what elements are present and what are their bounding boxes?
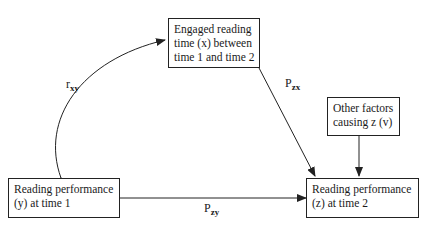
node-text: causing z (v) (333, 115, 394, 129)
node-reading-performance-y: Reading performance (y) at time 1 (8, 178, 120, 218)
label-base: P (204, 201, 211, 215)
correlation-arrow-rxy (55, 40, 165, 178)
node-text: time 1 and time 2 (174, 50, 254, 64)
node-text: Engaged reading (174, 22, 254, 36)
node-other-factors: Other factors causing z (v) (327, 97, 400, 136)
node-text: Reading performance (312, 182, 413, 196)
node-text: time (x) between (174, 36, 254, 50)
node-text: (z) at time 2 (312, 196, 413, 210)
edge-label-pzy: Pzy (204, 201, 219, 217)
label-subscript: xy (70, 83, 79, 93)
edge-label-pzx: Pzx (285, 76, 300, 92)
node-reading-performance-z: Reading performance (z) at time 2 (306, 178, 419, 218)
node-text: Reading performance (14, 182, 114, 196)
label-subscript: zx (292, 82, 301, 92)
node-engaged-reading-time: Engaged reading time (x) between time 1 … (168, 18, 260, 68)
edge-label-rxy: rxy (66, 77, 79, 93)
node-text: Other factors (333, 101, 394, 115)
label-subscript: zy (211, 207, 220, 217)
node-text: (y) at time 1 (14, 196, 114, 210)
label-base: P (285, 76, 292, 90)
